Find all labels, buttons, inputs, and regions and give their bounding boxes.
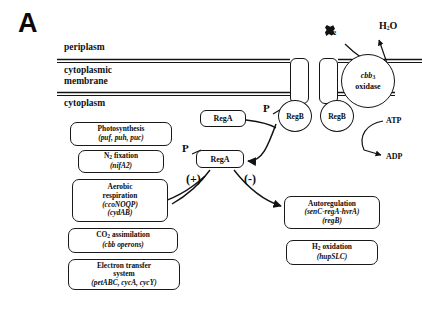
compartment-label-cytoplasmic-membrane: cytoplasmic membrane (64, 65, 112, 86)
h2-oxidation-title-post: oxidation (321, 242, 352, 251)
repression-arrow (234, 170, 281, 206)
regb-sensor-right: RegB (320, 100, 354, 132)
aerobic-genes-2: (cydAB) (107, 209, 132, 218)
rega-unphosphorylated: RegA (200, 110, 246, 127)
oxygen-label: O2 (325, 24, 336, 36)
compartment-label-cytoplasm: cytoplasm (64, 98, 105, 109)
compartment-label-periplasm: periplasm (64, 42, 105, 53)
autoregulation-genes-2: (regB) (322, 217, 342, 226)
atp-label: ATP (386, 116, 401, 125)
rega-recycle-line (246, 120, 276, 128)
signaling-pathway-figure: A periplasm cytoplasmic membrane cytopla… (0, 0, 422, 315)
adp-label: ADP (386, 152, 402, 161)
water-o: O (390, 20, 398, 31)
phosphate-label-regb: P (263, 102, 270, 114)
n2-fixation-title-post: fixation (112, 151, 138, 160)
target-box-photosynthesis: Photosynthesis (puf, puh, puc) (70, 122, 172, 146)
target-box-autoregulation: Autoregulation (senC-regA-hvrA) (regB) (284, 196, 380, 229)
co2-genes: (cbb operons) (102, 241, 144, 250)
oxidase-name: cbb (361, 71, 373, 80)
target-box-electron-transfer-system: Electron transfer system (petABC, cycA, … (68, 259, 180, 290)
oxidase-subscript: 3 (372, 74, 375, 80)
co2-title-pre: CO (96, 230, 107, 239)
ets-genes: (petABC, cycA, cycY) (91, 279, 156, 288)
phosphotransfer-arrow (248, 124, 276, 161)
h2-oxidation-genes: (hupSLC) (317, 253, 347, 262)
adp-arrowhead-line (364, 150, 381, 155)
oxygen-subscript: 2 (334, 30, 337, 36)
n2-fixation-genes: (nifA2) (110, 162, 132, 171)
water-label: H2O (379, 20, 397, 31)
panel-label: A (18, 8, 38, 39)
regb-sensor-left: RegB (278, 100, 312, 132)
water-h: H (379, 20, 387, 31)
target-box-n2-fixation: N2 fixation (nifA2) (78, 150, 164, 173)
transmembrane-helix-2 (319, 58, 338, 104)
activation-sign: (+) (186, 172, 201, 187)
photosynthesis-genes: (puf, puh, puc) (98, 134, 144, 143)
co2-title-post: assimilation (110, 230, 150, 239)
phosphate-label-rega: P (182, 142, 189, 154)
cbb3-oxidase: cbb3 oxidase (341, 54, 395, 108)
rega-phosphorylated: RegA (196, 150, 244, 168)
target-box-co2-assimilation: CO2 assimilation (cbb operons) (68, 228, 178, 253)
repression-sign: (-) (244, 172, 256, 187)
atp-to-adp-arrow (362, 121, 383, 150)
oxidase-line1: cbb3 (361, 71, 375, 82)
target-box-aerobic-respiration: Aerobic respiration (ccoNOQP) (cydAB) (72, 179, 168, 222)
target-box-h2-oxidation: H2 oxidation (hupSLC) (286, 240, 378, 265)
oxidase-line2: oxidase (355, 82, 380, 91)
transmembrane-helix-1 (290, 58, 309, 104)
